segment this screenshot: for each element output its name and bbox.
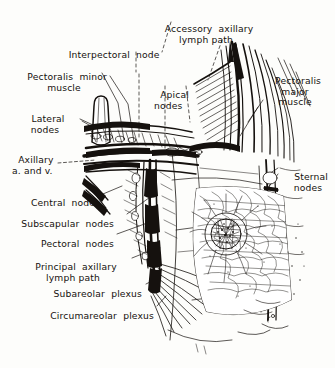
label-apical-nodes: Apicalnodes [154, 80, 189, 111]
label-central-nodes: Central nodes [0, 188, 100, 209]
label-sternal-nodes: Sternalnodes [282, 162, 334, 193]
label-interpectoral-node: Interpectoral node [52, 40, 170, 61]
label-pectoral-nodes: Pectoral nodes [0, 229, 114, 250]
label-pectoralis-major-muscle: Pectoralismajormuscle [258, 66, 332, 108]
label-subscapular-nodes: Subscapular nodes [0, 209, 114, 230]
pectoralis-minor-muscle-drawing [92, 96, 110, 145]
label-pectoralis-minor-muscle: Pectoralis minormuscle [10, 62, 118, 93]
label-subareolar-plexus: Subareolar plexus [0, 279, 142, 300]
label-axillary-artery-and-vein: Axillarya. and v. [12, 145, 54, 176]
label-lateral-nodes: Lateralnodes [12, 104, 78, 135]
label-circumareolar-plexus: Circumareolar plexus [0, 301, 154, 322]
breast-plexus-drawing [193, 186, 292, 315]
anatomical-figure: Accessory axillarylymph path Interpector… [0, 0, 335, 368]
